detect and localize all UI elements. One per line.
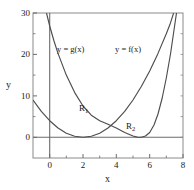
curve-label-f: y = f(x) — [115, 45, 141, 54]
y-tick-label-10: 10 — [14, 92, 30, 101]
curve-label-g: y = g(x) — [57, 45, 84, 54]
region-label-r1: R1 — [79, 104, 88, 113]
chart-figure: 0 10 20 30 0 2 4 6 8 y x y = g(x) y = f(… — [0, 0, 194, 190]
x-tick-label-8: 8 — [180, 161, 186, 170]
y-tick-label-20: 20 — [14, 50, 30, 59]
y-tick-label-30: 30 — [14, 9, 30, 18]
y-tick-label-0: 0 — [20, 133, 30, 142]
y-axis-title: y — [6, 80, 11, 90]
region-label-r1-sub: 1 — [85, 107, 88, 114]
x-tick-label-4: 4 — [113, 161, 119, 170]
x-axis-title: x — [105, 174, 110, 184]
plot-frame — [33, 13, 183, 158]
x-tick-label-6: 6 — [147, 161, 153, 170]
x-tick-label-0: 0 — [47, 161, 53, 170]
x-tick-label-2: 2 — [80, 161, 86, 170]
region-label-r2-sub: 2 — [132, 125, 135, 132]
region-label-r2: R2 — [126, 122, 135, 131]
